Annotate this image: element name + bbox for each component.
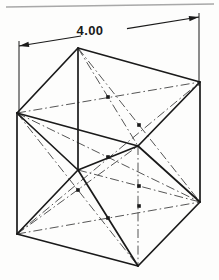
cube-edge-left_front-to-center_hidden <box>78 146 138 170</box>
cube-edge-left_front-to-bottom_front <box>78 170 138 266</box>
cube-edge-center_hidden-to-right_front <box>138 146 200 202</box>
centerline-marker <box>137 184 141 188</box>
centerline-marker <box>137 204 141 208</box>
cube-edge-bottom_front-to-right_front <box>138 202 200 266</box>
dimension-extension-lines <box>19 13 199 116</box>
technical-drawing-canvas: 4.00 <box>0 0 219 280</box>
centerline-marker <box>137 123 141 127</box>
dimension-value-label: 4.00 <box>77 23 104 38</box>
cube-edge-right_back-to-center_hidden <box>138 82 200 146</box>
cube-edge-top_back-to-left_back <box>17 48 78 113</box>
cube-edge-top_back-to-right_back <box>78 48 200 82</box>
cube-solid-edges <box>17 48 200 266</box>
cube-edge-bottom_left-to-left_front <box>17 170 78 234</box>
centerline-marker <box>76 188 80 192</box>
dimension-line <box>19 16 199 47</box>
cube-edge-bottom_left-to-bottom_front <box>17 234 138 266</box>
scan-artifact-line <box>6 4 214 7</box>
centerline-marker <box>106 95 110 99</box>
isometric-cube-drawing: 4.00 <box>0 0 219 280</box>
